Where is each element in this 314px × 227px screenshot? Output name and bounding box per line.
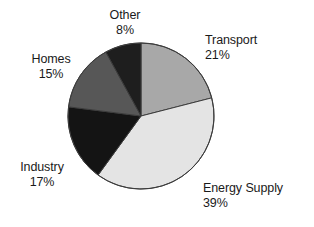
pie-label-energy-supply-percent: 39% (203, 196, 313, 211)
pie-label-energy-supply-name: Energy Supply (203, 181, 313, 196)
pie-label-homes: Homes 15% (14, 52, 88, 81)
pie-label-other-percent: 8% (86, 23, 164, 38)
pie-label-energy-supply: Energy Supply 39% (203, 181, 313, 210)
pie-label-other: Other 8% (86, 8, 164, 37)
pie-label-transport: Transport 21% (205, 33, 305, 62)
pie-label-other-name: Other (86, 8, 164, 23)
pie-label-transport-name: Transport (205, 33, 305, 48)
pie-label-transport-percent: 21% (205, 48, 305, 63)
pie-label-homes-percent: 15% (14, 67, 88, 82)
pie-chart-figure: Other 8% Transport 21% Homes 15% Industr… (0, 0, 314, 227)
pie-label-homes-name: Homes (14, 52, 88, 67)
pie-slices-group (68, 43, 214, 189)
pie-label-industry: Industry 17% (2, 160, 82, 189)
pie-label-industry-name: Industry (2, 160, 82, 175)
pie-label-industry-percent: 17% (2, 175, 82, 190)
